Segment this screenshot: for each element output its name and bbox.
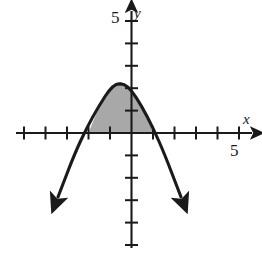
y-axis-label: y: [134, 6, 141, 21]
x-axis-label: x: [243, 112, 250, 127]
graph-figure: y x 5 5: [0, 0, 262, 255]
x-axis-tick-label-5: 5: [230, 142, 239, 159]
y-axis-tick-label-5: 5: [111, 9, 120, 26]
plot-canvas: [0, 0, 262, 255]
